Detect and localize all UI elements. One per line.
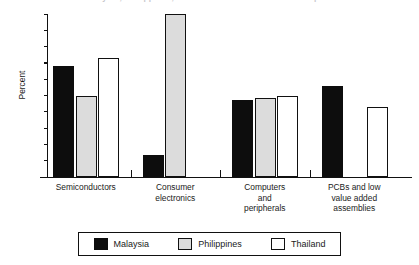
chart-legend: MalaysiaPhilippinesThailand: [78, 232, 341, 256]
y-axis-title: Percent: [17, 50, 27, 120]
category-label-line: peripherals: [217, 203, 313, 214]
legend-label-thailand: Thailand: [291, 239, 326, 249]
group-separator-tick: [310, 170, 311, 178]
chart-title: Malaysia, Philippines, Thailand: share o…: [0, 0, 419, 3]
bar-chart-figure: Malaysia, Philippines, Thailand: share o…: [0, 0, 419, 265]
bar-philippines: [165, 14, 186, 177]
bar-malaysia: [322, 86, 343, 177]
bar-malaysia: [53, 66, 74, 177]
legend-label-philippines: Philippines: [198, 239, 242, 249]
bar-philippines: [255, 98, 276, 177]
category-label-line: electronics: [127, 193, 223, 204]
bar-malaysia: [232, 100, 253, 177]
x-axis-line: [40, 177, 412, 178]
group-separator-tick: [220, 170, 221, 178]
category-label: Consumerelectronics: [127, 182, 223, 203]
category-label: Computersandperipherals: [217, 182, 313, 214]
category-label-line: value added: [306, 193, 402, 204]
legend-swatch-philippines: [178, 238, 192, 250]
bar-thailand: [277, 96, 298, 178]
bar-malaysia: [143, 155, 164, 177]
category-label-line: Consumer: [127, 182, 223, 193]
legend-item-thailand: Thailand: [271, 238, 326, 250]
legend-label-malaysia: Malaysia: [114, 239, 150, 249]
category-label: PCBs and lowvalue addedassemblies: [306, 182, 402, 214]
bar-thailand: [367, 107, 388, 177]
legend-item-malaysia: Malaysia: [94, 238, 150, 250]
category-label-line: Computers: [217, 182, 313, 193]
category-label-line: Semiconductors: [38, 182, 134, 193]
bars-layer: [47, 14, 405, 177]
legend-swatch-thailand: [271, 238, 285, 250]
legend-swatch-malaysia: [94, 238, 108, 250]
legend-item-philippines: Philippines: [178, 238, 242, 250]
bar-thailand: [98, 58, 119, 177]
category-label: Semiconductors: [38, 182, 134, 193]
category-label-line: PCBs and low: [306, 182, 402, 193]
group-separator-tick: [131, 170, 132, 178]
category-label-line: assemblies: [306, 203, 402, 214]
bar-philippines: [76, 96, 97, 178]
category-label-line: and: [217, 193, 313, 204]
